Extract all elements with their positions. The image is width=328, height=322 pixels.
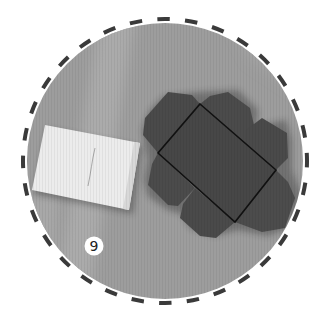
step-number-badge: 9: [85, 237, 104, 256]
illustration-canvas: 9: [0, 0, 328, 322]
step-illustration: 9: [0, 0, 328, 322]
photo-circle: [0, 0, 328, 322]
photo-texture: [0, 0, 328, 322]
step-number-label: 9: [90, 238, 99, 254]
